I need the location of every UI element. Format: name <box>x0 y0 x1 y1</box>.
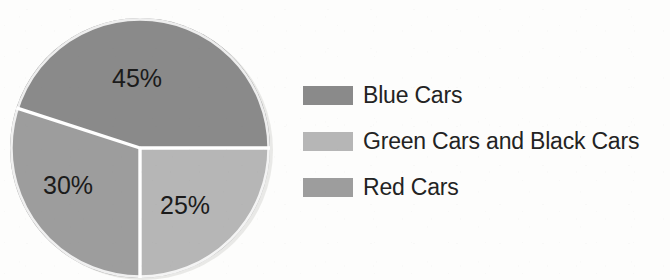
legend-swatch-green-and-black-cars <box>303 132 353 151</box>
legend-item-red-cars: Red Cars <box>303 164 670 210</box>
pie-chart-svg <box>0 0 290 280</box>
pie-label-30-percent: 30% <box>43 171 93 200</box>
legend-swatch-red-cars <box>303 178 353 197</box>
pie-chart-plot-area: 45% 30% 25% <box>0 0 290 280</box>
legend-label-blue-cars: Blue Cars <box>363 82 462 109</box>
legend-label-red-cars: Red Cars <box>363 174 459 201</box>
pie-chart-figure: 45% 30% 25% Blue Cars Green Cars and Bla… <box>0 0 670 280</box>
legend-swatch-blue-cars <box>303 86 353 105</box>
pie-label-25-percent: 25% <box>160 191 210 220</box>
legend-item-green-and-black-cars: Green Cars and Black Cars <box>303 118 670 164</box>
chart-legend: Blue Cars Green Cars and Black Cars Red … <box>303 72 670 210</box>
pie-label-45-percent: 45% <box>112 64 162 93</box>
legend-label-green-and-black-cars: Green Cars and Black Cars <box>363 128 639 155</box>
legend-item-blue-cars: Blue Cars <box>303 72 670 118</box>
